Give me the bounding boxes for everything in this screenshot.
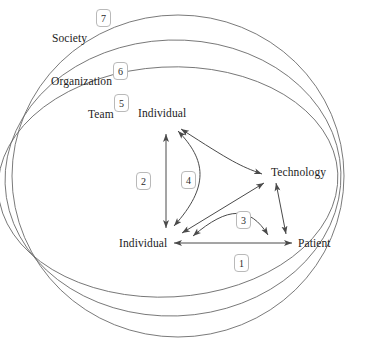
ring-label-team: Team	[88, 108, 114, 120]
badge-4: 4	[181, 171, 196, 189]
badge-5: 5	[114, 94, 129, 112]
ring-label-society: Society	[52, 32, 87, 44]
badge-6: 6	[113, 62, 128, 80]
badge-1: 1	[234, 254, 249, 272]
relation-3-arrow-curve	[193, 213, 268, 236]
badge-2: 2	[136, 172, 151, 190]
node-label-individual-top: Individual	[138, 107, 186, 119]
badge-3: 3	[236, 211, 251, 229]
node-label-patient: Patient	[298, 237, 331, 249]
relation-3-arrow-vertical	[276, 183, 286, 234]
node-label-individual-bottom: Individual	[119, 237, 167, 249]
node-label-technology: Technology	[271, 166, 326, 178]
sociotechnical-system-diagram: Society Organization Team Individual Tec…	[0, 0, 366, 357]
badge-7: 7	[96, 9, 111, 27]
relation-4-arrow-diagonal	[182, 183, 264, 233]
ring-label-organization: Organization	[51, 75, 112, 87]
ring-team-ellipse	[0, 58, 344, 305]
